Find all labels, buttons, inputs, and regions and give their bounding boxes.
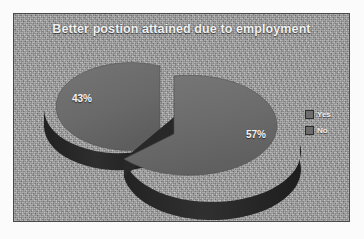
legend-label-no: No xyxy=(317,126,328,135)
legend-swatch-yes xyxy=(305,110,314,119)
chart-legend: Yes No xyxy=(305,110,345,142)
pie-chart-svg xyxy=(14,14,349,221)
legend-swatch-no xyxy=(305,126,314,135)
page-canvas: Better postion attained due to employmen… xyxy=(0,0,364,239)
pie-chart: 43% 57% xyxy=(14,14,349,221)
legend-item-no[interactable]: No xyxy=(305,126,345,135)
pie-label-no: 43% xyxy=(72,93,92,104)
pie-label-yes: 57% xyxy=(246,129,266,140)
chart-panel: Better postion attained due to employmen… xyxy=(13,13,350,222)
legend-item-yes[interactable]: Yes xyxy=(305,110,345,119)
legend-label-yes: Yes xyxy=(317,110,331,119)
pie-slice-no-top xyxy=(56,63,160,151)
